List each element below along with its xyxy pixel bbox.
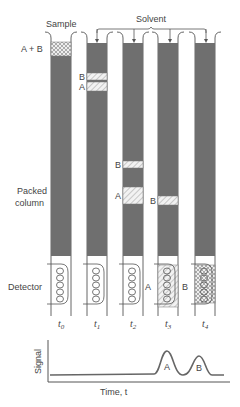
- column-t3: BAt3: [145, 32, 184, 331]
- peak-b-label: B: [196, 363, 202, 373]
- peak-a-label: A: [164, 362, 170, 372]
- signal-chart: A B Signal Time, t: [33, 340, 230, 397]
- sample-label: Sample: [46, 19, 77, 29]
- band-label: B: [150, 196, 156, 206]
- time-label-t2: t2: [130, 318, 137, 331]
- tube-wall-right: [178, 32, 184, 316]
- band-label: B: [79, 72, 85, 82]
- band-label: A: [79, 82, 85, 92]
- packing: [123, 43, 143, 256]
- band-label: B: [115, 160, 121, 170]
- signal-axis-label: Signal: [33, 349, 43, 374]
- band-b: [123, 161, 143, 168]
- time-label-t0: t0: [58, 318, 65, 331]
- columns: t0BAt1BAt2BAt3Bt4: [45, 32, 221, 331]
- time-label-t1: t1: [94, 318, 100, 331]
- solvent-arrowheads: [95, 39, 208, 43]
- solvent-label: Solvent: [136, 14, 167, 24]
- column-t2: BAt2: [115, 32, 149, 331]
- column-t4: Bt4: [182, 32, 221, 331]
- detector-label: Detector: [8, 282, 42, 292]
- time-axis-label: Time, t: [100, 387, 128, 397]
- tube-wall-left: [117, 32, 123, 316]
- tube-wall-right: [107, 32, 113, 316]
- packed-column-label-1: Packed: [17, 186, 47, 196]
- packing: [158, 43, 178, 256]
- tube-wall-right: [71, 32, 77, 316]
- column-t1: BAt1: [79, 32, 113, 331]
- detector-coil-icon: [47, 264, 68, 304]
- tube-wall-right: [215, 32, 221, 316]
- tube-wall-left: [189, 32, 195, 316]
- time-label-t4: t4: [202, 318, 209, 331]
- band-label: A: [115, 191, 121, 201]
- tube-wall-left: [45, 32, 51, 316]
- a-plus-b-label: A + B: [21, 44, 43, 54]
- band-b: [158, 196, 178, 205]
- band-a: [87, 82, 107, 91]
- packing: [51, 43, 71, 256]
- packed-column-label-2: column: [15, 198, 44, 208]
- detector-coil-icon: [119, 264, 140, 304]
- time-label-t3: t3: [165, 318, 172, 331]
- detector-band-label: A: [145, 282, 151, 292]
- solvent-bracket: [97, 27, 206, 40]
- tube-wall-right: [143, 32, 149, 316]
- band-ab: [51, 42, 71, 56]
- column-t0: t0: [45, 32, 77, 331]
- detector-band-label: B: [182, 282, 188, 292]
- tube-wall-left: [152, 32, 158, 316]
- band-b: [87, 73, 107, 80]
- packing: [195, 43, 215, 256]
- detector-coil-icon: [83, 264, 104, 304]
- band-a: [123, 187, 143, 204]
- chromatography-diagram: Sample Solvent A + B Packed column Detec…: [0, 0, 240, 407]
